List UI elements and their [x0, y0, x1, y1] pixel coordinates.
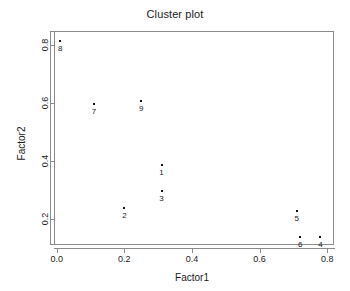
x-tick-label: 0.4: [186, 254, 199, 264]
data-point-marker: [140, 100, 142, 102]
y-tick-label: 0.2: [40, 208, 50, 230]
data-point-label: 2: [122, 211, 126, 220]
x-tick-mark: [192, 249, 193, 253]
x-axis-label: Factor1: [50, 272, 334, 283]
data-points-layer: 123456789: [50, 31, 334, 245]
y-tick-label: 0.4: [40, 150, 50, 172]
x-tick-mark: [124, 249, 125, 253]
data-point-marker: [59, 40, 61, 42]
data-point-label: 7: [92, 107, 96, 116]
data-point-marker: [299, 236, 301, 238]
chart-title: Cluster plot: [0, 8, 350, 20]
data-point-label: 6: [298, 240, 302, 249]
x-tick-label: 0.2: [118, 254, 131, 264]
cluster-plot-figure: Cluster plot 0.00.20.40.60.8 0.20.40.60.…: [0, 0, 350, 291]
x-tick-label: 0.0: [50, 254, 63, 264]
data-point-label: 1: [159, 168, 163, 177]
x-tick-mark: [57, 249, 58, 253]
y-tick-label: 0.8: [40, 34, 50, 56]
data-point-marker: [161, 164, 163, 166]
data-point-marker: [319, 236, 321, 238]
x-tick-label: 0.8: [321, 254, 334, 264]
data-point-marker: [123, 207, 125, 209]
data-point-marker: [161, 190, 163, 192]
data-point-label: 8: [58, 44, 62, 53]
data-point-label: 3: [159, 194, 163, 203]
data-point-marker: [296, 210, 298, 212]
x-axis-line: [54, 248, 335, 249]
data-point-marker: [93, 103, 95, 105]
x-tick-mark: [327, 249, 328, 253]
y-tick-label: 0.6: [40, 92, 50, 114]
data-point-label: 4: [318, 240, 322, 249]
x-tick-mark: [260, 249, 261, 253]
x-tick-label: 0.6: [253, 254, 266, 264]
y-axis-label: Factor2: [16, 114, 27, 174]
data-point-label: 5: [295, 214, 299, 223]
data-point-label: 9: [139, 104, 143, 113]
